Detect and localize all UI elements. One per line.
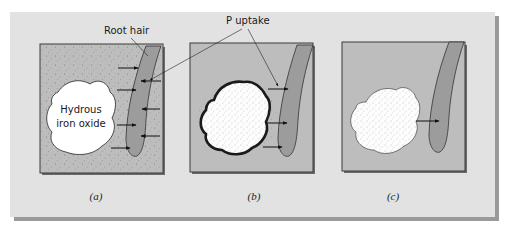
root-hair-label: Root hair [104, 25, 150, 36]
oxide-label-line1: Hydrous [60, 104, 101, 115]
caption-a: (a) [90, 190, 103, 203]
oxide-label-line2: iron oxide [56, 118, 105, 129]
panel-c [342, 42, 467, 173]
p-uptake-label: P uptake [226, 15, 270, 26]
caption-c: (c) [387, 190, 400, 203]
caption-b: (b) [248, 190, 261, 203]
panel-b [190, 43, 315, 174]
phosphorus-uptake-diagram: Hydrous iron oxide Root hair P uptake (a… [0, 0, 508, 230]
panel-a [40, 44, 165, 175]
